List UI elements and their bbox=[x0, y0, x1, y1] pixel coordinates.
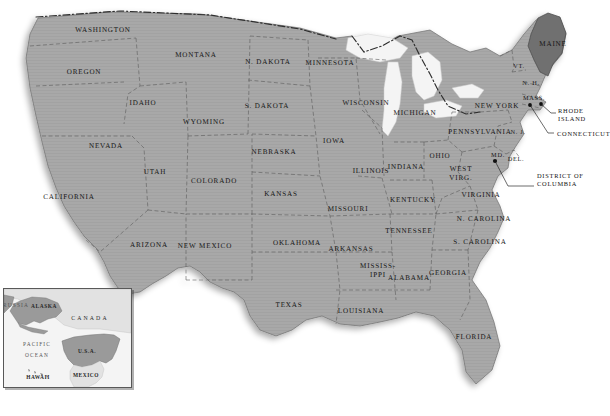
callout-label-line: CONNECTICUT bbox=[557, 130, 610, 138]
inset-label-pacific: PACIFIC bbox=[23, 341, 51, 347]
callout-label-connecticut: CONNECTICUT bbox=[557, 130, 610, 138]
inset-label-canada: CANADA bbox=[71, 315, 108, 321]
dot-connecticut bbox=[528, 103, 532, 107]
callout-label-district-of-columbia: DISTRICT OFCOLUMBIA bbox=[537, 172, 584, 188]
dot-rhode-island bbox=[539, 102, 543, 106]
callout-label-line: DISTRICT OF bbox=[537, 172, 584, 180]
inset-label-mexico: MEXICO bbox=[73, 372, 99, 378]
inset-label-hawaii: HAWAII bbox=[26, 374, 50, 380]
inset-label-u-s-a: U.S.A. bbox=[78, 348, 96, 354]
us-map-figure: WASHINGTONOREGONMONTANAN. DAKOTAMINNESOT… bbox=[0, 0, 610, 416]
callout-label-line: ISLAND bbox=[558, 115, 586, 123]
inset-label-ocean: OCEAN bbox=[25, 352, 49, 358]
callout-label-rhode-island: RHODEISLAND bbox=[558, 107, 586, 123]
locator-inset-map: RUSSIAALASKACANADAPACIFICOCEANU.S.A.MEXI… bbox=[3, 288, 132, 388]
callout-label-line: RHODE bbox=[558, 107, 586, 115]
inset-label-alaska: ALASKA bbox=[31, 303, 57, 309]
dot-district-of-columbia bbox=[493, 159, 497, 163]
inset-label-russia: RUSSIA bbox=[3, 302, 29, 308]
callout-label-line: COLUMBIA bbox=[537, 180, 584, 188]
